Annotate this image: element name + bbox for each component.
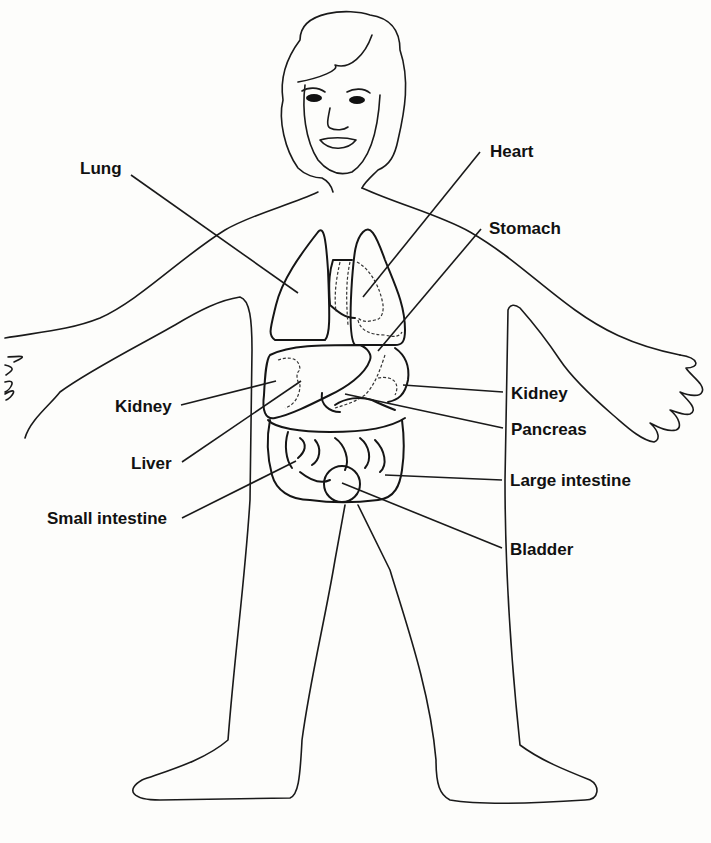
label-kidney-left: Kidney	[115, 398, 172, 415]
body-outline	[5, 188, 703, 803]
head-drawing	[281, 12, 405, 192]
label-kidney-right: Kidney	[511, 385, 568, 402]
label-bladder: Bladder	[510, 541, 573, 558]
label-pancreas: Pancreas	[511, 421, 587, 438]
intestines-drawing	[268, 418, 405, 502]
label-heart: Heart	[490, 143, 533, 160]
body-illustration	[0, 0, 711, 843]
abdomen-organs-drawing	[263, 345, 408, 418]
label-large-intestine: Large intestine	[510, 472, 631, 489]
label-stomach: Stomach	[489, 220, 561, 237]
leader-lines	[131, 152, 503, 548]
label-small-intestine: Small intestine	[47, 510, 167, 527]
label-lung: Lung	[80, 160, 122, 177]
label-liver: Liver	[131, 455, 172, 472]
heart-drawing	[329, 260, 402, 336]
body-organs-diagram: Lung Heart Stomach Kidney Kidney Pancrea…	[0, 0, 711, 843]
